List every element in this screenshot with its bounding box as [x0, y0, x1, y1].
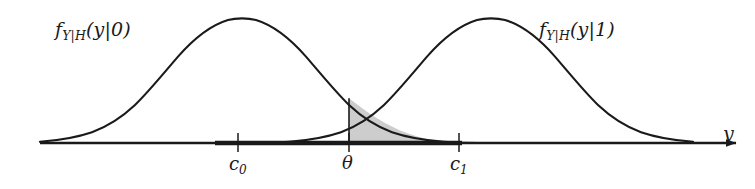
tick-label-c0: c0 [229, 153, 247, 177]
density-label-0: fY|H(y|0) [55, 18, 131, 43]
figure-container: fY|H(y|0) fY|H(y|1) c0 θ c1 y [0, 0, 755, 189]
density-label-0-argument: (y|0) [86, 18, 131, 40]
density-label-0-subscript: Y|H [62, 28, 86, 43]
x-axis-label: y [723, 122, 734, 144]
tick-label-c1-base: c [450, 153, 460, 174]
tick-label-c1-subscript: 1 [460, 163, 468, 177]
tick-label-c0-base: c [229, 153, 239, 174]
density-label-1-argument: (y|1) [570, 18, 615, 40]
density-curve-1 [255, 18, 693, 143]
tick-label-c0-subscript: 0 [239, 163, 247, 177]
density-label-1: fY|H(y|1) [539, 18, 615, 43]
tick-label-c1: c1 [450, 153, 468, 177]
density-label-1-subscript: Y|H [546, 28, 570, 43]
tick-label-theta: θ [342, 152, 353, 173]
